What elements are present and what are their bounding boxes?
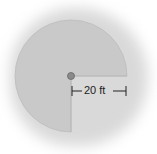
- diagram-canvas: 20 ft: [0, 0, 157, 154]
- radius-label: 20 ft: [84, 84, 105, 96]
- sprinkler-head-icon: [68, 73, 75, 80]
- coverage-region-svg: [0, 0, 157, 154]
